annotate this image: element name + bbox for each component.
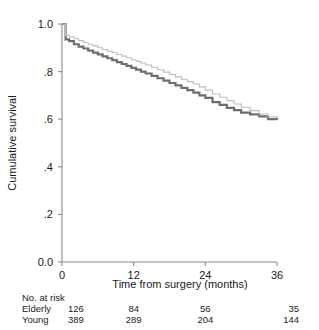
- y-tick-label: 1.0: [38, 18, 53, 30]
- y-axis-ticks: [58, 24, 62, 262]
- risk-count: 204: [197, 314, 213, 325]
- risk-count: 389: [68, 314, 84, 325]
- y-tick-label: .8: [44, 66, 53, 78]
- risk-count: 126: [68, 303, 84, 314]
- risk-count: 144: [283, 314, 299, 325]
- kaplan-meier-figure: 0.0.2.4.6.81.0 Cumulative survival 01224…: [0, 0, 319, 330]
- survival-curves: [62, 24, 277, 120]
- risk-count: 56: [200, 303, 211, 314]
- y-tick-label: 0.0: [38, 256, 53, 268]
- risk-count: 289: [126, 314, 142, 325]
- y-axis-title: Cumulative survival: [6, 95, 18, 190]
- y-tick-label: .2: [44, 208, 53, 220]
- risk-row-label: Elderly: [22, 303, 51, 314]
- risk-count: 35: [288, 303, 299, 314]
- x-tick-label: 0: [59, 269, 65, 281]
- y-tick-label: .4: [44, 161, 53, 173]
- survival-chart: 0.0.2.4.6.81.0 Cumulative survival 01224…: [0, 0, 319, 330]
- x-axis: 0122436 Time from surgery (months): [59, 262, 283, 290]
- risk-count: 84: [128, 303, 139, 314]
- y-axis-tick-labels: 0.0.2.4.6.81.0: [38, 18, 53, 268]
- x-axis-title: Time from surgery (months): [112, 278, 247, 290]
- x-tick-label: 36: [271, 269, 283, 281]
- risk-table-rows: Elderly126845635Young389289204144: [22, 303, 299, 325]
- risk-table: No. at risk Elderly126845635Young3892892…: [22, 292, 299, 325]
- risk-row-label: Young: [22, 314, 49, 325]
- y-axis: 0.0.2.4.6.81.0 Cumulative survival: [6, 18, 62, 268]
- x-axis-ticks: [62, 262, 277, 266]
- y-tick-label: .6: [44, 113, 53, 125]
- risk-table-title: No. at risk: [22, 292, 65, 303]
- survival-curve-young: [62, 24, 277, 118]
